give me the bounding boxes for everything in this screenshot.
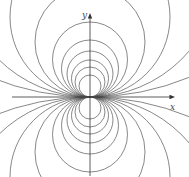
dipole-field-diagram: y x xyxy=(0,0,189,177)
y-axis-label: y xyxy=(81,10,88,20)
x-axis-label: x xyxy=(170,102,175,112)
field-circle xyxy=(0,97,189,177)
field-circle xyxy=(0,0,189,97)
field-circles xyxy=(0,0,189,177)
x-axis-arrow-icon xyxy=(170,95,176,99)
field-circle xyxy=(0,97,189,177)
y-axis-arrow-icon xyxy=(88,13,92,19)
field-circle xyxy=(0,0,189,97)
